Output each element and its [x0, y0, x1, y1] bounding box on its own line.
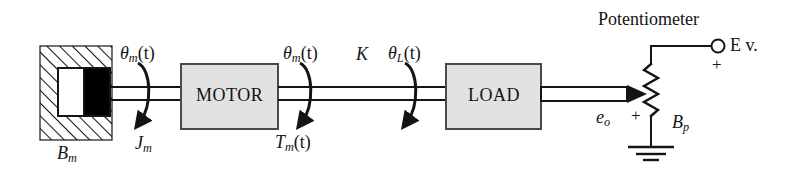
plus-output-label: + — [631, 107, 641, 124]
theta-m-left-subscript: m — [129, 51, 138, 65]
damper-bm — [58, 68, 110, 116]
theta-m-left-arg: (t) — [138, 43, 155, 63]
inertia-jm-symbol: J — [135, 133, 143, 153]
supply-terminal-label: E v. — [730, 36, 758, 54]
shaft-motor-to-load — [278, 87, 446, 100]
damping-bm-subscript: m — [68, 151, 77, 165]
theta-m-left-symbol: θ — [120, 43, 129, 63]
theta-m-left-label: θm(t) — [120, 44, 155, 65]
damping-bm-symbol: B — [57, 143, 68, 163]
theta-m-right-arg: (t) — [301, 43, 318, 63]
theta-l-arg: (t) — [404, 43, 421, 63]
figure-canvas: MOTOR LOAD Potentiometer θm(t) Jm Bm θm(… — [0, 0, 786, 179]
damping-bm-label: Bm — [57, 144, 77, 165]
torsion-arrow-theta-m-left — [138, 63, 149, 122]
output-voltage-eo-subscript: o — [604, 115, 610, 129]
theta-m-right-subscript: m — [292, 51, 301, 65]
torsion-arrow-theta-l — [405, 63, 416, 122]
theta-m-right-label: θm(t) — [283, 44, 318, 65]
theta-m-right-symbol: θ — [283, 43, 292, 63]
plus-supply-label: + — [712, 56, 722, 73]
ground-symbol — [628, 147, 674, 160]
pot-resistance-bp-label: Bp — [672, 113, 689, 134]
torque-tm-label: Tm(t) — [275, 133, 311, 154]
theta-l-subscript: L — [397, 51, 404, 65]
spring-constant-k-label: K — [356, 45, 368, 63]
potentiometer-resistor — [644, 64, 658, 116]
shaft-load-to-potentiometer — [541, 87, 627, 101]
torque-tm-subscript: m — [285, 140, 294, 154]
inertia-jm-subscript: m — [143, 141, 152, 155]
torque-tm-symbol: T — [275, 132, 285, 152]
motor-block-label: MOTOR — [196, 86, 263, 104]
torque-tm-arg: (t) — [294, 132, 311, 152]
pot-resistance-bp-symbol: B — [672, 112, 683, 132]
theta-l-label: θL(t) — [388, 44, 421, 65]
inertia-jm-label: Jm — [135, 134, 152, 155]
output-voltage-eo-symbol: e — [596, 107, 604, 127]
shaft-damper-to-motor — [110, 87, 181, 100]
output-voltage-eo-label: eo — [596, 108, 610, 129]
theta-l-symbol: θ — [388, 43, 397, 63]
potentiometer-title: Potentiometer — [598, 10, 699, 28]
torsion-arrow-theta-m-right — [300, 63, 311, 122]
load-block-label: LOAD — [468, 86, 520, 104]
potentiometer-circuit — [627, 40, 725, 161]
pot-resistance-bp-subscript: p — [683, 120, 689, 134]
potentiometer-wiper-arrow — [627, 85, 647, 103]
